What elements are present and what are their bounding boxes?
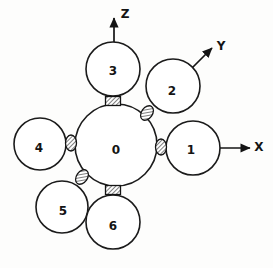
sphere-4-label: 4 <box>35 141 43 155</box>
bond-0-6 <box>106 186 121 195</box>
sphere-2-label: 2 <box>168 84 176 98</box>
sphere-1-label: 1 <box>187 143 195 157</box>
sphere-6-label: 6 <box>109 219 117 233</box>
bond-0-1 <box>156 139 167 155</box>
x-axis-label: X <box>254 140 264 154</box>
sphere-5-label: 5 <box>59 204 67 218</box>
bond-0-3 <box>106 97 121 106</box>
bond-0-4 <box>66 135 77 151</box>
z-axis-label: Z <box>121 7 130 21</box>
figure-canvas: 0123456 ZYX <box>0 0 273 268</box>
sphere-3-label: 3 <box>109 64 117 78</box>
sphere-packing-figure: 0123456 ZYX <box>0 0 273 268</box>
y-axis-label: Y <box>216 39 226 53</box>
sphere-0-label: 0 <box>112 143 120 157</box>
